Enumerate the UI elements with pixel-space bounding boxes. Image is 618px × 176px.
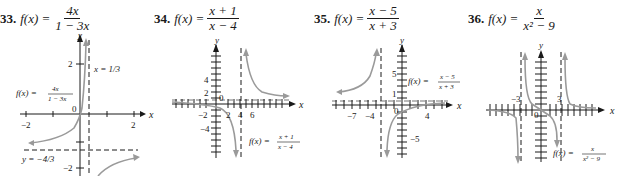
curve-label-numerator: x − 5 bbox=[439, 73, 455, 81]
y-tick-label: 4 bbox=[204, 75, 209, 85]
graph-34: y x −2 2 4 6 4 2 −4 0 f(x) = x + 1 x − 4 bbox=[150, 0, 300, 176]
origin-label: 0 bbox=[219, 93, 224, 103]
graph-33: y x −2 2 2 −2 0 x = 1/3 y = −4/3 f(x) = … bbox=[0, 0, 150, 176]
x-tick-label: 3 bbox=[557, 94, 562, 104]
graph-35: y x −7 −4 4 5 1 −5 0 f(x) = x − 5 x + 3 bbox=[300, 0, 460, 176]
y-axis-label: y bbox=[77, 30, 82, 40]
y-tick-label: 5 bbox=[392, 69, 397, 79]
y-axis-label: y bbox=[214, 35, 219, 45]
y-tick-label: 1 bbox=[392, 89, 397, 99]
origin-label: 0 bbox=[72, 104, 77, 114]
curve-label-denominator: 1 − 3x bbox=[48, 95, 67, 103]
curve-label-denominator: x² − 9 bbox=[582, 155, 600, 163]
y-axis-label: y bbox=[538, 40, 543, 50]
x-tick-label: 4 bbox=[238, 110, 243, 120]
graph-36: y x −3 3 0 f(x) = x x² − 9 bbox=[460, 0, 618, 176]
curve-label-numerator: 4x bbox=[52, 85, 60, 93]
vertical-asymptote-label: x = 1/3 bbox=[93, 64, 121, 74]
curve-label: f(x) = bbox=[16, 88, 37, 98]
horizontal-asymptote-label: y = −4/3 bbox=[21, 154, 55, 164]
y-tick-label: −5 bbox=[410, 134, 420, 144]
x-tick-label: −2 bbox=[21, 120, 31, 130]
y-axis-label: y bbox=[399, 35, 404, 45]
origin-label: 0 bbox=[534, 110, 539, 120]
x-tick-label: −7 bbox=[347, 111, 357, 121]
x-axis-label: x bbox=[609, 105, 615, 116]
x-tick-label: −3 bbox=[511, 94, 521, 104]
x-tick-label: −2 bbox=[198, 110, 208, 120]
x-tick-label: 4 bbox=[425, 111, 430, 121]
y-tick-label: 2 bbox=[204, 88, 209, 98]
y-tick-label: 2 bbox=[68, 59, 73, 69]
origin-label: 0 bbox=[394, 106, 399, 116]
curve-label-numerator: x + 1 bbox=[278, 133, 294, 141]
y-tick-label: −2 bbox=[63, 163, 73, 173]
x-tick-label: 2 bbox=[131, 120, 136, 130]
curve-label-denominator: x − 4 bbox=[277, 143, 293, 151]
curve-label-numerator: x bbox=[590, 145, 595, 153]
x-tick-label: 6 bbox=[250, 110, 255, 120]
curve-label-denominator: x + 3 bbox=[438, 83, 454, 91]
curve-label: f(x) = bbox=[408, 76, 429, 86]
problem-36: 36. f(x) = x x² − 9 bbox=[460, 0, 618, 176]
problem-33: 33. f(x) = 4x 1 − 3x y x −2 2 bbox=[0, 0, 150, 176]
curve-label: f(x) = bbox=[553, 148, 574, 158]
y-tick-label: −4 bbox=[200, 124, 210, 134]
problem-35: 35. f(x) = x − 5 x + 3 bbox=[300, 0, 460, 176]
problem-34: 34. f(x) = x + 1 x − 4 bbox=[150, 0, 300, 176]
x-tick-label: 2 bbox=[226, 110, 231, 120]
x-tick-label: −4 bbox=[365, 111, 375, 121]
curve-label: f(x) = bbox=[249, 136, 270, 146]
